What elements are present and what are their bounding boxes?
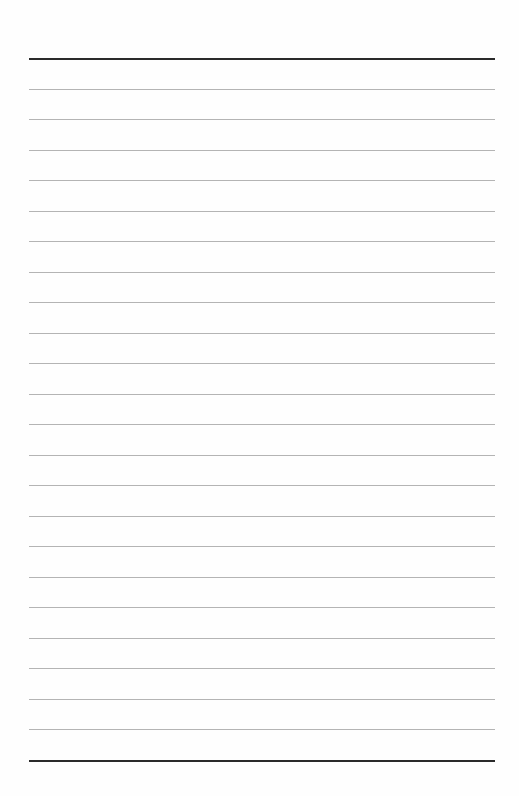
top-border-rule [29,58,495,60]
ruled-line [29,333,495,334]
ruled-line [29,211,495,212]
bottom-border-rule [29,760,495,762]
ruled-line [29,729,495,730]
ruled-line [29,394,495,395]
ruled-line [29,638,495,639]
ruled-line [29,302,495,303]
ruled-line [29,699,495,700]
ruled-line [29,241,495,242]
ruled-line [29,668,495,669]
ruled-line [29,516,495,517]
ruled-line [29,485,495,486]
ruled-line [29,455,495,456]
ruled-line [29,89,495,90]
ruled-line [29,363,495,364]
ruled-line [29,119,495,120]
ruled-line [29,577,495,578]
ruled-line [29,607,495,608]
lined-paper-page [0,0,519,796]
ruled-line [29,546,495,547]
ruled-line [29,150,495,151]
ruled-line [29,272,495,273]
ruled-line [29,180,495,181]
ruled-line [29,424,495,425]
